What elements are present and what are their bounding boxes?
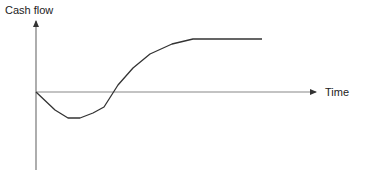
x-axis-label: Time [325,86,349,98]
chart-canvas: Cash flow Time [0,0,366,176]
y-axis-label: Cash flow [5,4,53,16]
cash-flow-curve [36,39,262,118]
